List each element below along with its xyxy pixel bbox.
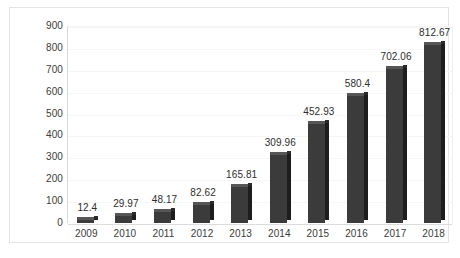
bar-front-face xyxy=(115,216,132,223)
bar-front-face xyxy=(347,96,364,223)
bar-front-face xyxy=(270,155,287,223)
bar-top-face xyxy=(231,184,248,187)
y-axis-tick-label: 0 xyxy=(17,218,63,228)
y-axis-tick-label: 400 xyxy=(17,130,63,140)
y-axis-tick-label: 500 xyxy=(17,109,63,119)
bar-value-label: 580.4 xyxy=(338,78,377,89)
bar-top-skew-face xyxy=(171,208,175,211)
bar-value-label: 29.97 xyxy=(106,198,145,209)
bar[interactable] xyxy=(347,93,368,223)
bar[interactable] xyxy=(154,209,175,223)
bar-front-face xyxy=(77,220,94,223)
y-axis-tick-label: 700 xyxy=(17,65,63,75)
bar-front-face xyxy=(424,45,441,223)
x-axis-tick-label: 2018 xyxy=(414,228,453,240)
bar-side-face xyxy=(364,93,368,220)
gridline xyxy=(68,27,452,28)
bar-top-skew-face xyxy=(287,151,291,154)
x-axis-tick-label: 2016 xyxy=(337,228,376,240)
bar-side-face xyxy=(287,152,291,220)
gridline xyxy=(68,224,452,225)
bar-side-face xyxy=(325,121,329,220)
plot-area: 12.429.9748.1782.62165.81309.96452.93580… xyxy=(67,26,453,223)
bar[interactable] xyxy=(308,121,329,223)
bar-side-face xyxy=(248,184,252,220)
y-axis-tick-label: 300 xyxy=(17,152,63,162)
y-axis: 9008007006005004003002001000 xyxy=(13,26,63,223)
y-axis-tick-label: 100 xyxy=(17,196,63,206)
bar-top-face xyxy=(77,217,94,220)
bar-value-label: 48.17 xyxy=(145,194,184,205)
bar-front-face xyxy=(231,187,248,223)
bar-side-face xyxy=(403,66,407,220)
y-axis-tick-label: 200 xyxy=(17,174,63,184)
bar-top-face xyxy=(347,93,364,96)
chart-frame: 9008007006005004003002001000 12.429.9748… xyxy=(9,7,449,243)
x-axis-tick-label: 2017 xyxy=(376,228,415,240)
bar-value-label: 12.4 xyxy=(68,202,107,213)
bar-value-label: 702.06 xyxy=(377,51,416,62)
bar-top-skew-face xyxy=(132,212,136,215)
bar-top-skew-face xyxy=(403,65,407,68)
bar-top-skew-face xyxy=(210,201,214,204)
bar-front-face xyxy=(308,124,325,223)
bar[interactable] xyxy=(231,184,252,223)
y-axis-tick-label: 900 xyxy=(17,21,63,31)
bar-side-face xyxy=(210,202,214,220)
y-axis-tick-label: 600 xyxy=(17,87,63,97)
bar-value-label: 309.96 xyxy=(261,137,300,148)
bar-top-face xyxy=(424,42,441,45)
bar-side-face xyxy=(441,42,445,220)
bar-top-skew-face xyxy=(94,216,98,219)
bar-top-skew-face xyxy=(325,120,329,123)
bar-top-face xyxy=(154,209,171,212)
bar[interactable] xyxy=(386,66,407,223)
bar-top-face xyxy=(386,66,403,69)
x-axis: 2009201020112012201320142015201620172018 xyxy=(67,228,453,244)
bar[interactable] xyxy=(77,217,98,223)
x-axis-tick-label: 2009 xyxy=(67,228,106,240)
bar-value-label: 165.81 xyxy=(222,169,261,180)
bar[interactable] xyxy=(193,202,214,223)
bar-value-label: 82.62 xyxy=(184,187,223,198)
bar-top-face xyxy=(308,121,325,124)
y-axis-tick-label: 800 xyxy=(17,43,63,53)
gridline xyxy=(68,49,452,50)
bar-top-skew-face xyxy=(248,183,252,186)
bar-front-face xyxy=(154,212,171,223)
x-axis-tick-label: 2012 xyxy=(183,228,222,240)
bar-value-label: 812.67 xyxy=(415,27,454,38)
bar-top-face xyxy=(193,202,210,205)
x-axis-tick-label: 2010 xyxy=(106,228,145,240)
bar[interactable] xyxy=(115,213,136,223)
bar-front-face xyxy=(193,205,210,223)
bar[interactable] xyxy=(424,42,445,223)
x-axis-tick-label: 2015 xyxy=(299,228,338,240)
bar-value-label: 452.93 xyxy=(299,106,338,117)
bar-top-face xyxy=(270,152,287,155)
x-axis-tick-label: 2011 xyxy=(144,228,183,240)
bar-top-face xyxy=(115,213,132,216)
bar-top-skew-face xyxy=(364,92,368,95)
bar-front-face xyxy=(386,69,403,223)
bar[interactable] xyxy=(270,152,291,223)
x-axis-tick-label: 2014 xyxy=(260,228,299,240)
bar-top-skew-face xyxy=(441,41,445,44)
x-axis-tick-label: 2013 xyxy=(221,228,260,240)
chart-container: 9008007006005004003002001000 12.429.9748… xyxy=(0,0,460,258)
